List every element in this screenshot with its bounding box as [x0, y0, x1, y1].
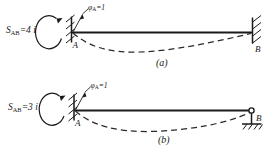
stiffness-subscript-b: AB	[13, 106, 22, 113]
node-label-b-right: B	[256, 113, 262, 123]
deflection-curve-a	[73, 33, 251, 52]
hinge-circle-b	[249, 108, 254, 113]
stiffness-label-a: SAB=4 i	[6, 25, 36, 36]
stiffness-value-b: =3 i	[22, 102, 39, 112]
stiffness-label-b: SAB=3 i	[8, 102, 38, 113]
node-label-b-left: A	[74, 118, 81, 128]
moment-arrow-a	[36, 16, 63, 49]
rotation-label-a: φA=1	[88, 3, 105, 13]
node-label-a-right: B	[255, 44, 261, 54]
rotation-label-b: φA=1	[91, 81, 108, 91]
svg-text:SAB=4 i: SAB=4 i	[6, 25, 36, 36]
panel-a: SAB=4 i	[6, 3, 261, 70]
support-hatch-a-right	[252, 16, 261, 44]
panel-caption-b: (b)	[158, 134, 170, 146]
rotation-indicator-b	[75, 87, 91, 111]
rotation-value-b: =1	[99, 81, 108, 90]
beam-stiffness-diagram: SAB=4 i	[0, 0, 275, 151]
svg-text:SAB=3 i: SAB=3 i	[8, 102, 38, 113]
stiffness-value-a: =4 i	[20, 25, 37, 35]
rotation-indicator-a	[73, 9, 89, 33]
svg-text:φA=1: φA=1	[91, 81, 108, 91]
fixed-support-a-right	[252, 16, 261, 44]
panel-caption-a: (a)	[156, 57, 168, 69]
panel-b: SAB=3 i	[8, 81, 263, 147]
svg-text:φA=1: φA=1	[88, 3, 105, 13]
ground-hatch-b	[243, 124, 263, 130]
stiffness-subscript-a: AB	[11, 29, 20, 36]
node-label-a-left: A	[72, 40, 79, 50]
moment-arrow-b	[39, 93, 65, 125]
deflection-curve-b	[76, 111, 251, 132]
figure-root: SAB=4 i	[0, 0, 275, 151]
rotation-value-a: =1	[96, 3, 105, 12]
